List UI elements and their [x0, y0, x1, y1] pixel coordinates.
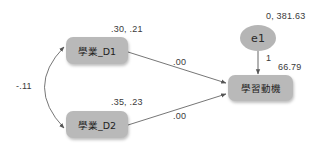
estimates-d1: .30, .21	[111, 24, 143, 34]
path-diagram-canvas	[0, 0, 322, 145]
node-academic-d2: 學業_D2	[66, 111, 128, 138]
node-label-outcome: 學習動機	[241, 81, 281, 95]
node-label-d1: 學業_D1	[78, 44, 116, 58]
intercept-outcome: 66.79	[278, 62, 302, 72]
path-weight-d1: .00	[173, 57, 186, 67]
node-label-e1: e1	[251, 32, 265, 45]
node-label-d2: 學業_D2	[78, 118, 116, 132]
node-academic-d1: 學業_D1	[66, 37, 128, 64]
path-weight-error: 1	[266, 53, 271, 63]
estimates-d2: .35, .23	[111, 97, 143, 107]
covariance-d1-d2: -.11	[16, 81, 32, 91]
node-learning-motivation: 學習動機	[228, 75, 293, 101]
covariance-curve-d1-d2	[45, 47, 65, 128]
estimates-e1: 0, 381.63	[266, 11, 305, 21]
path-weight-d2: .00	[173, 111, 186, 121]
node-error-e1: e1	[240, 25, 276, 51]
